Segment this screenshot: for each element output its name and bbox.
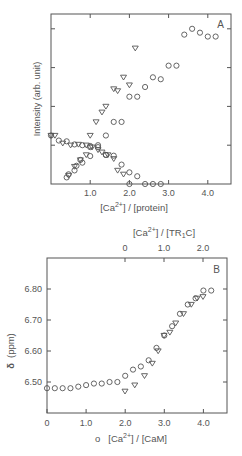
data-point bbox=[103, 104, 109, 109]
data-point bbox=[121, 172, 127, 177]
data-point bbox=[115, 89, 121, 94]
data-point bbox=[146, 358, 151, 363]
panel-b-label: B bbox=[213, 264, 220, 275]
panel-b-y-axis-label: δ(ppm) bbox=[5, 333, 16, 369]
x-tick-label: 4.0 bbox=[202, 188, 215, 198]
data-point bbox=[201, 288, 206, 293]
x-tick-label: 1.0 bbox=[80, 418, 93, 428]
data-point bbox=[83, 153, 89, 158]
y-tick-label: 6.60 bbox=[24, 346, 42, 356]
data-point bbox=[122, 389, 128, 394]
x-tick-label: 1.0 bbox=[84, 188, 97, 198]
data-point bbox=[190, 26, 195, 31]
y-tick-label: 6.80 bbox=[24, 284, 42, 294]
data-point bbox=[166, 63, 171, 68]
data-point bbox=[99, 110, 105, 115]
data-point bbox=[111, 157, 117, 162]
data-point bbox=[209, 288, 214, 293]
panel-a-y-axis-label: Intensity (arb. unit) bbox=[32, 62, 42, 137]
data-point bbox=[127, 170, 132, 175]
data-point bbox=[111, 153, 116, 158]
data-point bbox=[119, 119, 124, 124]
data-point bbox=[197, 30, 202, 35]
data-point bbox=[150, 75, 155, 80]
data-point bbox=[87, 133, 93, 138]
data-point bbox=[121, 75, 127, 80]
top-x-tick-label: 2.0 bbox=[197, 243, 210, 253]
data-point bbox=[158, 77, 163, 82]
panel-b-ticks bbox=[47, 258, 227, 413]
data-point bbox=[149, 361, 155, 366]
panel-b-y-tick-labels: 6.506.606.706.80 bbox=[24, 284, 42, 387]
x-tick-label: 4.0 bbox=[197, 418, 210, 428]
data-point bbox=[194, 296, 200, 301]
data-point bbox=[76, 384, 81, 389]
y-tick-label: 6.50 bbox=[24, 377, 42, 387]
panel-b-top-tick-labels: 01.02.0 bbox=[122, 243, 209, 253]
data-point bbox=[115, 168, 121, 173]
x-tick-label: 0 bbox=[44, 418, 49, 428]
data-point bbox=[68, 386, 73, 391]
circle-marker-legend-icon: o bbox=[95, 433, 100, 444]
data-point bbox=[135, 94, 140, 99]
panel-a-label: A bbox=[217, 19, 224, 30]
x-tick-label: 2.0 bbox=[119, 418, 132, 428]
panel-a-data-points bbox=[48, 26, 218, 186]
data-point bbox=[103, 133, 108, 138]
data-point bbox=[132, 46, 138, 51]
data-point bbox=[119, 162, 124, 167]
data-point bbox=[52, 386, 57, 391]
data-point bbox=[138, 364, 143, 369]
y-tick-label: 6.70 bbox=[24, 315, 42, 325]
data-point bbox=[127, 94, 132, 99]
x-tick-label: 3.0 bbox=[158, 418, 171, 428]
data-point bbox=[132, 383, 138, 388]
data-point bbox=[135, 174, 140, 179]
data-point bbox=[68, 143, 74, 148]
data-point bbox=[93, 120, 99, 125]
data-point bbox=[99, 381, 104, 386]
data-point bbox=[200, 295, 206, 300]
data-point bbox=[170, 324, 175, 329]
panel-b: [Ca2+] / [TR1C] 01.02.0 B 6.506.606.706.… bbox=[5, 226, 227, 444]
top-x-tick-label: 1.0 bbox=[158, 243, 171, 253]
data-point bbox=[205, 34, 210, 39]
panel-b-data-points bbox=[44, 288, 213, 394]
data-point bbox=[167, 330, 173, 335]
data-point bbox=[126, 83, 132, 88]
x-tick-label: 3.0 bbox=[162, 188, 175, 198]
data-point bbox=[173, 321, 179, 326]
data-point bbox=[115, 379, 120, 384]
data-point bbox=[111, 119, 116, 124]
data-point bbox=[182, 32, 187, 37]
data-point bbox=[213, 34, 218, 39]
x-tick-label: 2.0 bbox=[123, 188, 136, 198]
data-point bbox=[130, 367, 135, 372]
data-point bbox=[91, 381, 96, 386]
panel-b-x-tick-labels: 01.02.03.04.0 bbox=[44, 418, 209, 428]
figure: A 1.02.03.04.0 Intensity (arb. unit) [Ca… bbox=[0, 0, 242, 456]
panel-b-frame bbox=[47, 258, 227, 413]
data-point bbox=[60, 386, 65, 391]
data-point bbox=[123, 373, 128, 378]
panel-a: A 1.02.03.04.0 Intensity (arb. unit) [Ca… bbox=[32, 14, 231, 213]
data-point bbox=[142, 374, 148, 379]
panel-b-x-axis-label: o[Ca2+] / [CaM] bbox=[95, 432, 167, 444]
panel-a-x-axis-label: [Ca2+] / [protein] bbox=[100, 201, 168, 213]
data-point bbox=[107, 379, 112, 384]
data-point bbox=[154, 345, 159, 350]
top-x-tick-label: 0 bbox=[122, 243, 127, 253]
data-point bbox=[174, 63, 179, 68]
data-point bbox=[142, 84, 147, 89]
data-point bbox=[84, 383, 89, 388]
panel-a-x-tick-labels: 1.02.03.04.0 bbox=[84, 188, 214, 198]
panel-b-top-axis-label: [Ca2+] / [TR1C] bbox=[133, 226, 195, 239]
